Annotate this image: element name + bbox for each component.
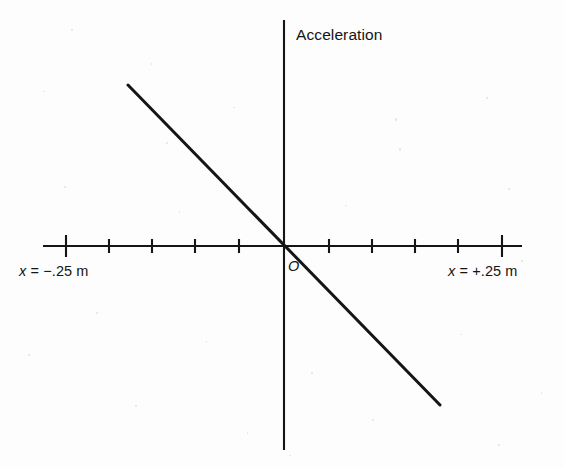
x-min-value: = −.25 m — [26, 263, 88, 279]
plot-area — [0, 0, 564, 467]
x-axis-max-label: x = +.25 m — [448, 264, 518, 279]
chart-title: Acceleration — [296, 27, 383, 43]
x-max-value: = +.25 m — [455, 263, 517, 279]
origin-label: O — [288, 259, 299, 274]
x-axis-min-label: x = −.25 m — [19, 264, 89, 279]
acceleration-vs-position-figure: Acceleration x = −.25 m x = +.25 m O — [0, 0, 564, 467]
